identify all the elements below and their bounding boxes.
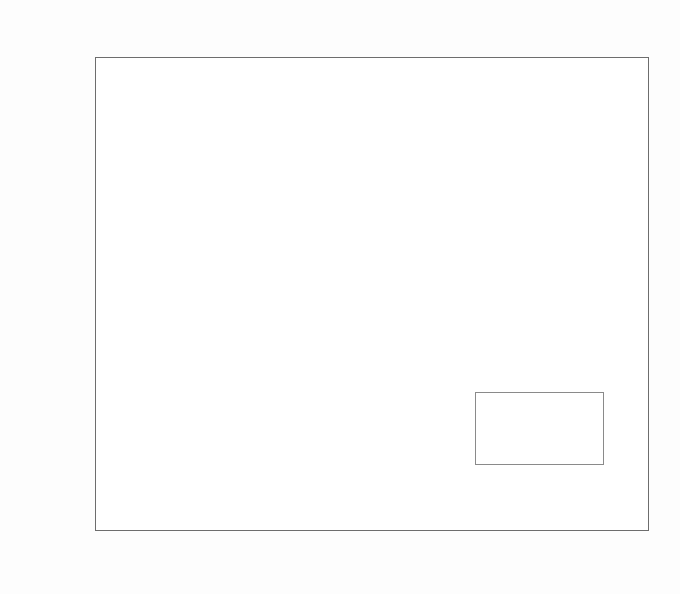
legend-border (475, 392, 603, 464)
legend[interactable] (475, 392, 603, 464)
chart-canvas (0, 0, 680, 594)
figure-container (0, 0, 680, 594)
